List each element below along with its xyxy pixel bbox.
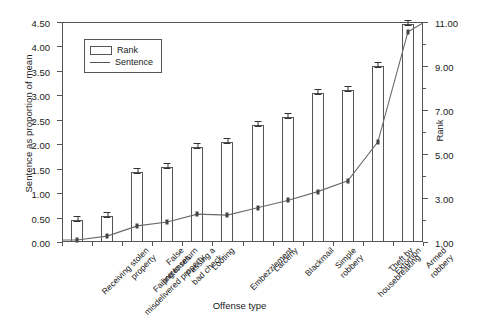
x-category-label: Simple robbery — [331, 246, 365, 280]
y-tick-right-minor — [423, 176, 426, 177]
x-tick — [393, 242, 394, 246]
x-tick — [363, 242, 364, 246]
y-tick-right-major: 5.00 — [423, 154, 428, 155]
y-tick-right-minor — [423, 132, 426, 133]
legend-label-sentence: Sentence — [115, 57, 153, 68]
y-tick-label-right: 9.00 — [435, 62, 454, 73]
x-tick — [243, 242, 244, 246]
x-axis-title: Offense type — [0, 300, 479, 311]
y-tick-label-left: 0.00 — [32, 238, 51, 249]
legend-line-swatch-icon — [90, 62, 110, 63]
x-category-label: Blackmail — [303, 246, 335, 278]
line-point-marker — [196, 212, 199, 217]
line-point-marker — [136, 223, 139, 228]
x-tick — [333, 242, 334, 246]
y-tick-right-minor — [423, 44, 426, 45]
y-tick-label-left: 3.00 — [32, 91, 51, 102]
y-tick-label-left: 1.50 — [32, 164, 51, 175]
legend-entry-rank: Rank — [90, 44, 153, 56]
line-point-marker — [106, 234, 109, 239]
y-tick-right-major: 9.00 — [423, 66, 428, 67]
y-tick-right-major: 3.00 — [423, 198, 428, 199]
line-point-marker — [406, 29, 409, 34]
x-tick — [182, 242, 183, 246]
legend-entry-sentence: Sentence — [90, 56, 153, 68]
line-point-marker — [76, 238, 79, 243]
line-point-marker — [346, 178, 349, 183]
chart-legend: Rank Sentence — [84, 39, 162, 73]
line-point-marker — [226, 213, 229, 218]
line-point-marker — [376, 139, 379, 144]
y-tick-label-left: 4.00 — [32, 42, 51, 53]
x-tick — [62, 242, 63, 246]
y-tick-label-right: 5.00 — [435, 150, 454, 161]
y-tick-label-left: 3.50 — [32, 66, 51, 77]
x-tick — [423, 242, 424, 246]
x-tick — [212, 242, 213, 246]
y-tick-label-left: 2.50 — [32, 115, 51, 126]
y-tick-right-minor — [423, 88, 426, 89]
x-tick — [122, 242, 123, 246]
y-tick-right-major: 7.00 — [423, 110, 428, 111]
legend-bar-swatch-icon — [90, 46, 112, 55]
y-tick-right-minor — [423, 220, 426, 221]
x-tick — [303, 242, 304, 246]
y-tick-label-left: 2.00 — [32, 140, 51, 151]
x-tick — [152, 242, 153, 246]
x-tick — [92, 242, 93, 246]
line-point-marker — [166, 219, 169, 224]
y-tick-label-left: 4.50 — [32, 18, 51, 29]
x-category-label: Armed robbery — [421, 246, 455, 280]
legend-label-rank: Rank — [117, 45, 138, 56]
y-tick-label-left: 1.00 — [32, 189, 51, 200]
line-point-marker — [256, 205, 259, 210]
y-tick-label-right: 7.00 — [435, 106, 454, 117]
y-tick-label-right: 11.00 — [435, 18, 458, 29]
line-point-marker — [316, 189, 319, 194]
x-tick — [273, 242, 274, 246]
chart-figure: Sentence as proportion of mean Rank Offe… — [0, 0, 479, 326]
plot-area: 0.000.501.001.502.002.503.003.504.004.50… — [62, 22, 423, 242]
y-tick-label-left: 0.50 — [32, 213, 51, 224]
y-tick-label-right: 3.00 — [435, 194, 454, 205]
line-point-marker — [286, 198, 289, 203]
y-tick-right-major: 11.00 — [423, 22, 428, 23]
